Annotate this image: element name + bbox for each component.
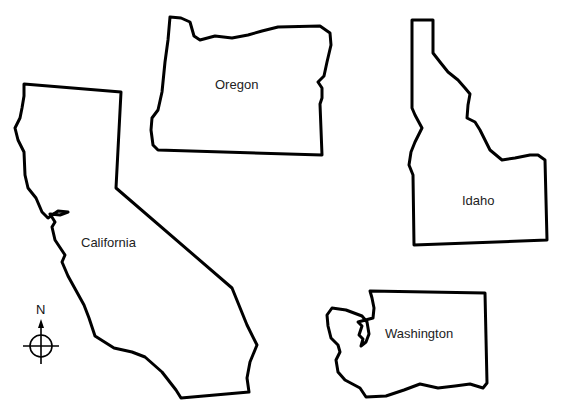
california-label: California <box>81 235 136 250</box>
washington-label: Washington <box>385 326 453 341</box>
idaho-label: Idaho <box>462 193 495 208</box>
oregon-label: Oregon <box>215 77 258 92</box>
idaho-shape <box>409 20 547 245</box>
compass-rose-icon <box>23 319 59 364</box>
washington-shape <box>327 291 487 397</box>
compass-north-label: N <box>36 302 45 317</box>
map-canvas <box>0 0 562 420</box>
state-outline-map: Oregon Idaho California Washington N <box>0 0 562 420</box>
